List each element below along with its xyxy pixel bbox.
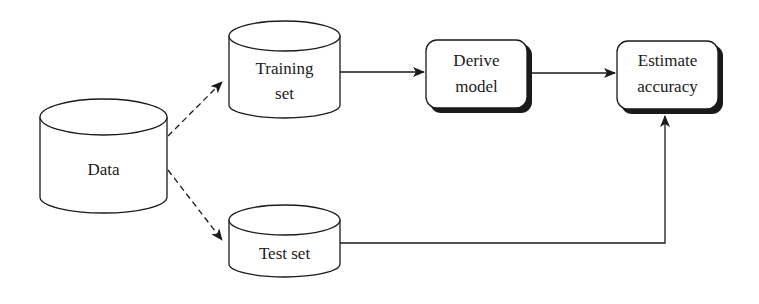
edge-data-to-test bbox=[168, 170, 222, 240]
test-set-label: Test set bbox=[229, 244, 340, 264]
diagram-canvas bbox=[0, 0, 759, 304]
test-set-cylinder bbox=[229, 205, 340, 277]
training-set-label-line1: Training bbox=[229, 59, 340, 79]
training-set-label: Training set bbox=[229, 59, 340, 104]
estimate-accuracy-label-line1: Estimate bbox=[617, 51, 718, 71]
edge-data-to-training bbox=[168, 82, 222, 136]
data-label: Data bbox=[40, 160, 167, 180]
edge-test-to-estimate bbox=[340, 116, 665, 243]
derive-model-label: Derive model bbox=[426, 51, 527, 97]
derive-model-label-line2: model bbox=[426, 77, 527, 97]
training-set-label-line2: set bbox=[229, 84, 340, 104]
data-cylinder bbox=[40, 99, 167, 213]
derive-model-label-line1: Derive bbox=[426, 51, 527, 71]
estimate-accuracy-label: Estimate accuracy bbox=[617, 51, 718, 97]
estimate-accuracy-label-line2: accuracy bbox=[617, 77, 718, 97]
